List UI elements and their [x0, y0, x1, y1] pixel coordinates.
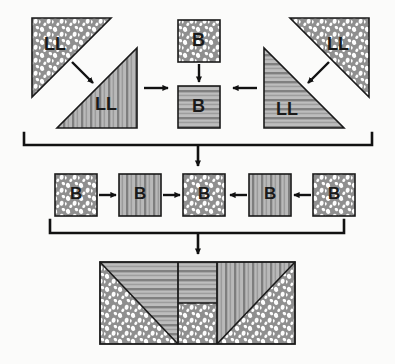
bracket-row1-to-row2 — [24, 133, 372, 166]
row1-right-arrow-down-left — [308, 62, 329, 83]
diagram-canvas — [0, 0, 395, 364]
finished-block-right-section — [217, 262, 295, 344]
row2-square-1-label: B — [70, 185, 82, 202]
finished-block-left-section — [100, 262, 178, 344]
finished-block — [100, 262, 295, 344]
row1-right-striped-triangle-label: LL — [276, 100, 298, 118]
row2-square-3-label: B — [198, 185, 210, 202]
assembly-diagram: LL LL B B LL LL B B B B B — [0, 0, 395, 364]
finished-block-center-section — [178, 262, 217, 344]
row2-square-2-label: B — [134, 185, 146, 202]
bracket-row2-to-row3 — [50, 220, 344, 254]
row1-right-dotted-triangle-label: LL — [327, 35, 349, 53]
row1-left-striped-triangle-label: LL — [95, 95, 117, 113]
row1-center-top-square-label: B — [192, 31, 205, 49]
row1-left-dotted-triangle-label: LL — [44, 35, 66, 53]
row1-center-bottom-square-label: B — [192, 97, 205, 115]
row2-square-4-label: B — [264, 185, 276, 202]
row2-square-5-label: B — [328, 185, 340, 202]
row1-left-arrow-down-right — [72, 62, 93, 83]
